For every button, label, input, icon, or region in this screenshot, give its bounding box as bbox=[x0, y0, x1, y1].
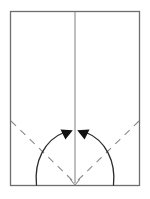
origami-diagram-svg bbox=[0, 0, 150, 199]
origami-diagram-container bbox=[0, 0, 150, 199]
